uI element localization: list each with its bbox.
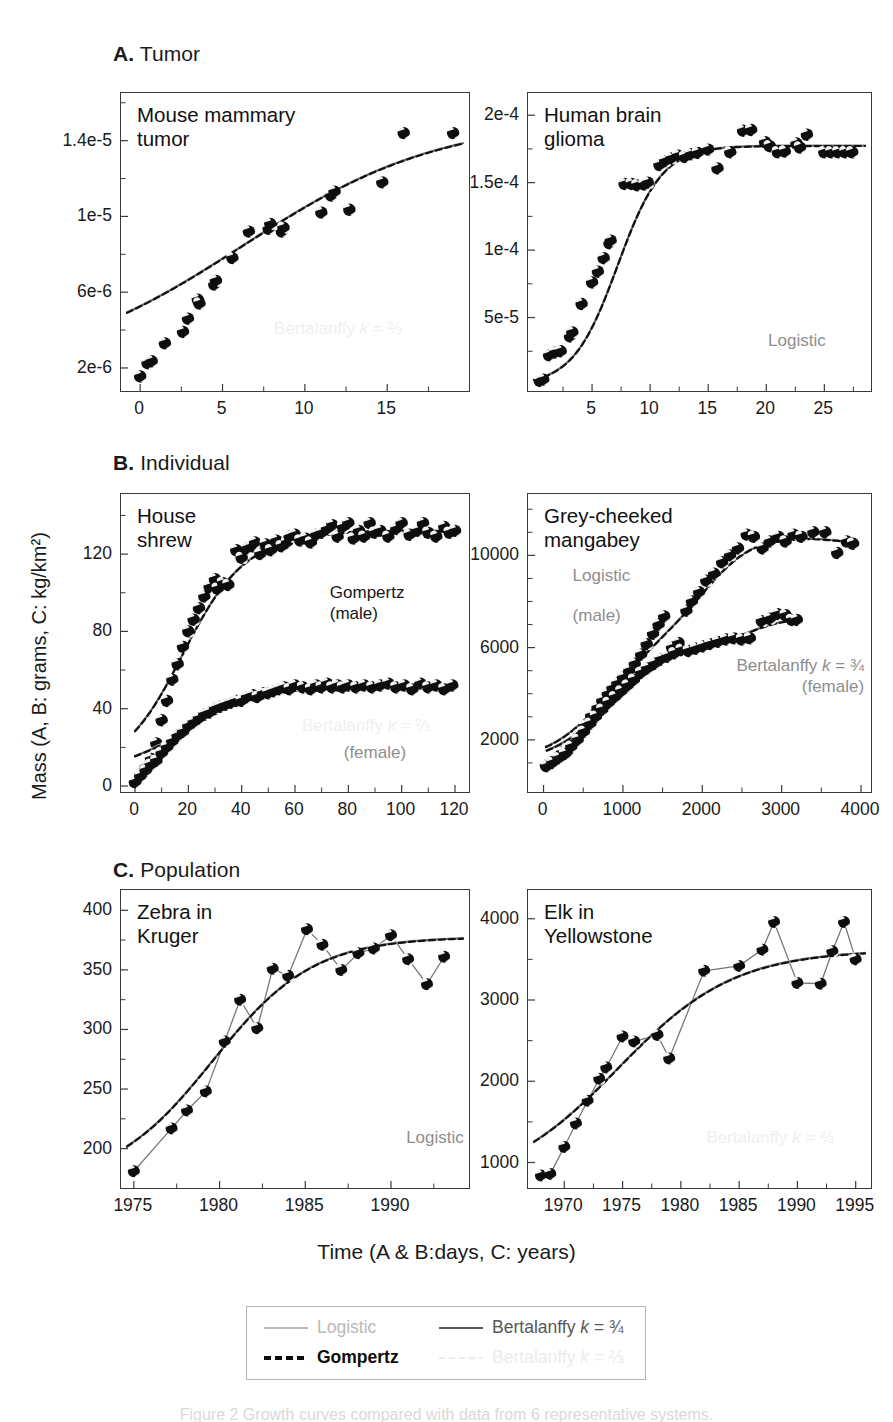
y-axis-title: Mass (A, B: grams, C: kg/km²): [28, 532, 51, 800]
data-point: [768, 916, 780, 928]
section-c-title: Population: [140, 858, 240, 881]
plot-area-elk-in-yellowstone: [528, 890, 871, 1188]
x-tick-label: 20: [756, 398, 775, 419]
plot-panel-zebra-in-kruger: Zebra in KrugerLogistic: [120, 889, 470, 1189]
plot-area-house-shrew: [121, 494, 469, 792]
x-tick-label: 1985: [719, 1195, 758, 1216]
data-point: [555, 345, 567, 357]
x-tick-label: 0: [129, 799, 139, 820]
y-tick-label: 300: [24, 1018, 112, 1039]
data-point: [446, 679, 458, 691]
legend-label: Logistic: [317, 1317, 376, 1338]
data-point: [438, 951, 450, 963]
legend: LogisticBertalanffy k = ¾GompertzBertala…: [246, 1306, 646, 1380]
axis-ticks: [121, 910, 434, 1188]
data-point: [128, 1165, 140, 1177]
x-tick-label: 20: [178, 799, 197, 820]
data-point: [744, 632, 756, 644]
data-point: [732, 542, 744, 554]
x-tick-label: 1975: [602, 1195, 641, 1216]
legend-label: Gompertz: [317, 1347, 399, 1368]
data-point: [385, 929, 397, 941]
data-point: [807, 526, 819, 538]
plot-area-zebra-in-kruger: [121, 890, 469, 1188]
series-group: [534, 124, 865, 387]
data-point: [447, 127, 459, 139]
y-tick-label: 120: [24, 543, 112, 564]
data-point: [779, 145, 791, 157]
section-a-letter: A.: [113, 42, 134, 65]
x-tick-label: 0: [538, 799, 548, 820]
x-tick-label: 5: [586, 398, 596, 419]
data-point: [537, 373, 549, 385]
y-tick-label: 5e-5: [431, 306, 519, 327]
y-tick-label: 1000: [431, 1151, 519, 1172]
data-point: [819, 526, 831, 538]
legend-label: Bertalanffy k = ⅔: [492, 1347, 624, 1368]
data-point: [641, 638, 653, 650]
data-point: [395, 517, 407, 529]
y-tick-label: 0: [24, 775, 112, 796]
x-tick-label: 0: [134, 398, 144, 419]
data-point: [342, 517, 354, 529]
section-a-title: Tumor: [140, 42, 200, 65]
section-heading-b: B. Individual: [113, 451, 230, 475]
y-tick-label: 1.4e-5: [24, 129, 112, 150]
legend-entry-1[interactable]: Bertalanffy k = ¾: [438, 1317, 629, 1338]
y-tick-label: 1e-4: [431, 239, 519, 260]
legend-entry-0[interactable]: Logistic: [263, 1317, 404, 1338]
y-tick-label: 3000: [431, 989, 519, 1010]
data-point: [335, 964, 347, 976]
x-tick-label: 15: [697, 398, 716, 419]
legend-line-swatch: [438, 1352, 484, 1364]
data-point: [604, 234, 616, 246]
y-tick-label: 6e-6: [24, 281, 112, 302]
series-group: [534, 916, 865, 1182]
data-point: [243, 225, 255, 237]
model-curve-solid-light: [127, 938, 463, 1146]
figure-caption: Figure 2 Growth curves compared with dat…: [0, 1406, 893, 1422]
data-point: [544, 1168, 556, 1180]
y-tick-label: 2e-6: [24, 356, 112, 377]
data-point: [402, 953, 414, 965]
data-point: [566, 326, 578, 338]
data-point: [187, 614, 199, 626]
data-point: [249, 536, 261, 548]
x-tick-label: 1975: [113, 1195, 152, 1216]
plot-panel-elk-in-yellowstone: Elk in YellowstoneBertalanffy k = ⅔: [527, 889, 872, 1189]
data-point: [846, 146, 858, 158]
data-point: [177, 641, 189, 653]
section-b-title: Individual: [140, 451, 230, 474]
x-tick-label: 1995: [835, 1195, 874, 1216]
data-point: [582, 1095, 594, 1107]
model-curve-dashed-faint: [127, 938, 463, 1146]
data-point: [617, 1031, 629, 1043]
data-point: [166, 674, 178, 686]
data-point: [724, 146, 736, 158]
data-point: [155, 714, 167, 726]
data-point: [600, 1061, 612, 1073]
y-tick-label: 2e-4: [431, 104, 519, 125]
data-point: [316, 939, 328, 951]
legend-entry-3[interactable]: Bertalanffy k = ⅔: [438, 1347, 629, 1368]
data-point: [586, 276, 598, 288]
data-point: [282, 970, 294, 982]
data-point: [181, 1104, 193, 1116]
legend-entry-2[interactable]: Gompertz: [263, 1347, 404, 1368]
data-point: [146, 355, 158, 367]
data-point: [663, 1052, 675, 1064]
data-point: [733, 960, 745, 972]
data-point: [597, 252, 609, 264]
data-point: [368, 942, 380, 954]
y-tick-label: 1.5e-4: [431, 171, 519, 192]
data-point: [234, 994, 246, 1006]
data-point: [791, 977, 803, 989]
y-tick-label: 250: [24, 1078, 112, 1099]
data-point: [592, 265, 604, 277]
data-point: [748, 531, 760, 543]
model-curve-solid-dark: [135, 686, 452, 756]
data-point: [826, 945, 838, 957]
y-tick-label: 6000: [431, 636, 519, 657]
data-point: [226, 252, 238, 264]
